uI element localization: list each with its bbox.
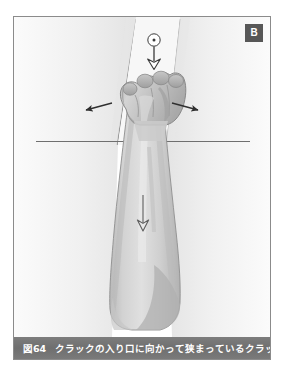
figure-caption-text: クラックの入り口に向かって狭まっているクラック bbox=[55, 341, 270, 355]
knuckle-2 bbox=[137, 74, 153, 88]
knuckle-4 bbox=[169, 75, 184, 88]
wrist bbox=[134, 121, 168, 141]
figure-page: B 図64 クラックの入り口に向かって狭まっているクラック bbox=[0, 0, 287, 377]
figure-frame: B 図64 クラックの入り口に向かって狭まっているクラック bbox=[13, 16, 271, 360]
crack-fist-illustration bbox=[14, 17, 270, 337]
illustration-canvas bbox=[14, 17, 270, 337]
figure-caption-bar: 図64 クラックの入り口に向かって狭まっているクラック bbox=[14, 337, 270, 359]
panel-letter-badge: B bbox=[245, 24, 263, 42]
knuckle-1 bbox=[123, 83, 137, 95]
figure-caption-number: 図64 bbox=[23, 341, 46, 355]
knuckle-3 bbox=[153, 71, 169, 85]
